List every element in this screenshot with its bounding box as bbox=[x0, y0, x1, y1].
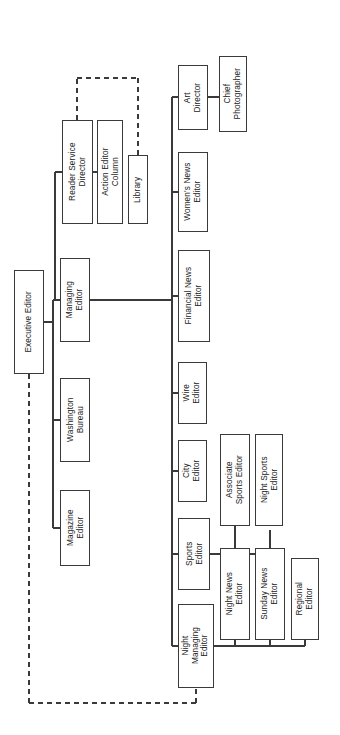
org-chart-connectors bbox=[0, 0, 340, 735]
node-executive-editor[interactable]: Executive Editor bbox=[14, 270, 44, 374]
node-label: Reader Service Director bbox=[68, 143, 87, 202]
node-chief-photographer[interactable]: Chief Photographer bbox=[219, 56, 247, 132]
node-label: Executive Editor bbox=[24, 291, 34, 353]
node-regional-editor[interactable]: Regional Editor bbox=[291, 558, 319, 640]
node-label: Managing Editor bbox=[65, 281, 84, 318]
node-night-news-editor[interactable]: Night News Editor bbox=[220, 548, 250, 640]
node-city-editor[interactable]: City Editor bbox=[178, 440, 207, 502]
dashed-edge-executive-to-night-managing bbox=[29, 374, 196, 703]
node-label: Washington Bureau bbox=[65, 398, 84, 442]
node-label: City Editor bbox=[183, 460, 202, 482]
node-label: Magazine Editor bbox=[65, 510, 84, 547]
node-managing-editor[interactable]: Managing Editor bbox=[60, 258, 90, 342]
node-financial-news-editor[interactable]: Financial News Editor bbox=[178, 250, 210, 342]
node-womens-news-editor[interactable]: Women's News Editor bbox=[178, 152, 208, 232]
node-label: Art Director bbox=[183, 83, 202, 113]
node-associate-sports-editor[interactable]: Associate Sports Editor bbox=[220, 434, 250, 526]
node-label: Financial News Editor bbox=[184, 267, 203, 325]
edge-executive-to-level1 bbox=[44, 300, 60, 528]
node-sports-editor[interactable]: Sports Editor bbox=[178, 518, 210, 590]
node-label: Sports Editor bbox=[184, 542, 203, 567]
node-label: Action Editor Column bbox=[100, 148, 119, 196]
node-label: Sunday News Editor bbox=[260, 568, 279, 620]
node-washington-bureau[interactable]: Washington Bureau bbox=[60, 378, 90, 462]
node-wire-editor[interactable]: Wire Editor bbox=[178, 362, 207, 424]
node-label: Library bbox=[133, 176, 143, 202]
node-action-editor-column[interactable]: Action Editor Column bbox=[97, 120, 123, 224]
node-label: Chief Photographer bbox=[223, 68, 242, 119]
node-art-director[interactable]: Art Director bbox=[178, 65, 208, 130]
node-label: Women's News Editor bbox=[183, 163, 202, 221]
node-label: Night Sports Editor bbox=[259, 457, 278, 504]
node-label: Night News Editor bbox=[225, 572, 244, 615]
node-magazine-editor[interactable]: Magazine Editor bbox=[60, 490, 90, 566]
node-library[interactable]: Library bbox=[128, 155, 148, 224]
node-reader-service-director[interactable]: Reader Service Director bbox=[62, 120, 93, 224]
node-label: Regional Editor bbox=[295, 582, 314, 616]
node-label: Night Managing Editor bbox=[182, 627, 211, 664]
node-label: Wire Editor bbox=[183, 382, 202, 404]
node-night-managing-editor[interactable]: Night Managing Editor bbox=[178, 604, 214, 688]
edge-night-managing-children bbox=[214, 640, 305, 646]
org-chart-canvas: Executive Editor Managing Editor Washing… bbox=[0, 0, 340, 735]
node-label: Associate Sports Editor bbox=[225, 455, 244, 504]
node-night-sports-editor[interactable]: Night Sports Editor bbox=[255, 434, 283, 526]
node-sunday-news-editor[interactable]: Sunday News Editor bbox=[255, 548, 285, 640]
